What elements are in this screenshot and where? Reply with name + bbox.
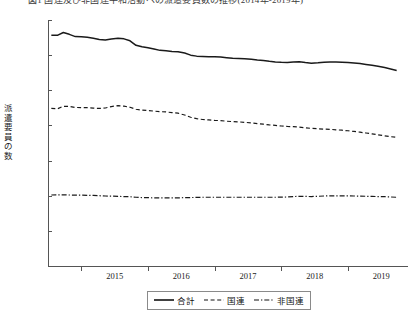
x-tick-mark [215,266,216,271]
series-line-国連 [51,106,396,138]
x-tick-label: 2016 [173,271,190,281]
y-axis-title-char: 数 [2,152,15,162]
chart-title-clipped: 図1 国連及び非国連平和活動への派遣要員数の推移(2014年-2019年) [0,0,416,7]
x-tick-mark [348,266,349,271]
y-tick-mark [48,266,52,267]
legend-item-非国連[interactable]: 非国連 [254,294,304,306]
legend-item-合計[interactable]: 合計 [154,294,195,306]
chart-figure: 図1 国連及び非国連平和活動への派遣要員数の推移(2014年-2019年) 派遣… [0,0,416,315]
series-line-非国連 [51,195,396,198]
y-axis-title: 派遣要員の数 [2,104,15,162]
legend-label: 非国連 [277,294,304,306]
x-tick-label: 2017 [240,271,257,281]
legend-label: 合計 [177,294,195,306]
legend-swatch-dashed-icon [204,296,224,304]
chart-plot-area [48,20,408,266]
legend-label: 国連 [227,294,245,306]
x-tick-mark [148,266,149,271]
x-tick-label: 2015 [106,271,123,281]
legend-swatch-dashdot-icon [254,296,274,304]
x-tick-label: 2018 [306,271,323,281]
x-tick-mark [81,266,82,271]
x-axis-line [48,266,408,267]
x-tick-label: 2019 [373,271,390,281]
legend-swatch-solid-icon [154,296,174,304]
chart-legend: 合計国連非国連 [147,291,311,310]
legend-item-国連[interactable]: 国連 [204,294,245,306]
chart-title: 図1 国連及び非国連平和活動への派遣要員数の推移(2014年-2019年) [28,0,303,6]
x-tick-mark [281,266,282,271]
series-line-合計 [51,33,396,71]
